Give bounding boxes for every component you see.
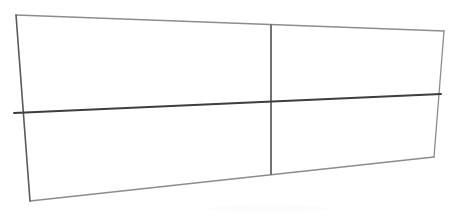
panel-top-left[interactable] [15, 15, 271, 110]
faint-smudge-mark [208, 205, 328, 213]
figure-canvas [0, 0, 456, 216]
panel-top-right[interactable] [271, 25, 444, 102]
panel-grid-figure [0, 0, 456, 216]
